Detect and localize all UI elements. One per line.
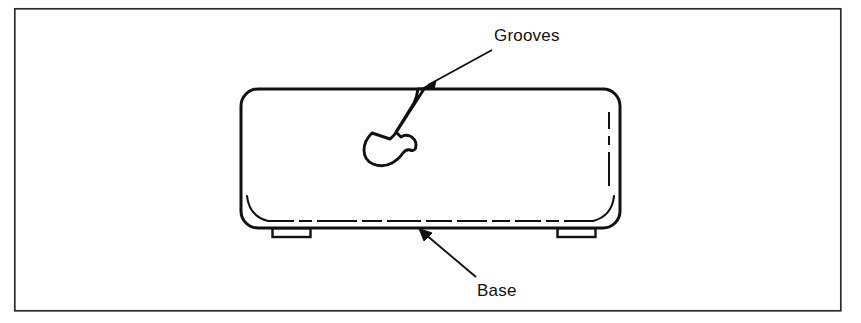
callout-leader-grooves: [422, 50, 492, 90]
callout-leader-base: [419, 229, 476, 278]
callout-label-grooves: Grooves: [494, 26, 560, 46]
foot-right: [558, 229, 596, 238]
foot-left: [273, 229, 311, 238]
figure-page: Grooves Base: [0, 0, 861, 323]
appliance-body: [241, 89, 620, 228]
callout-label-base: Base: [477, 281, 517, 301]
arrowhead-grooves: [422, 81, 436, 90]
technical-diagram: [0, 0, 861, 323]
